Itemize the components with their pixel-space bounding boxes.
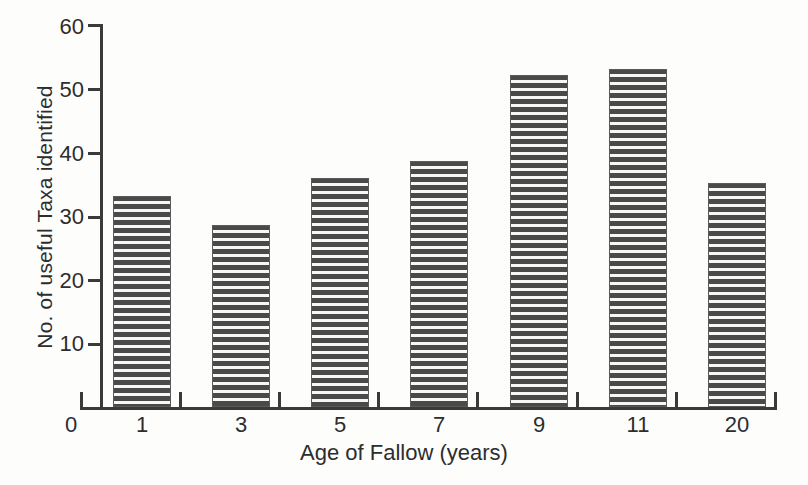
y-tick-label-0: 0 [56, 412, 86, 438]
bar-age-20 [708, 183, 766, 407]
x-tick-mark-6 [675, 392, 678, 410]
y-tick-label-30: 30 [40, 204, 84, 230]
x-tick-mark-3 [377, 392, 380, 410]
x-tick-mark-4 [476, 392, 479, 410]
bar-chart-figure: No. of useful Taxa identified 60 50 40 3… [0, 0, 808, 485]
y-tick-label-20: 20 [40, 268, 84, 294]
x-tick-label-11: 11 [608, 412, 668, 438]
y-tick-label-60: 60 [40, 14, 84, 40]
x-tick-mark-1 [179, 392, 182, 410]
bar-age-9 [510, 75, 568, 407]
x-tick-mark-5 [576, 392, 579, 410]
x-axis-end-cap [774, 392, 777, 410]
y-tick-label-50: 50 [40, 77, 84, 103]
x-tick-mark-0 [80, 392, 83, 410]
bar-age-3 [212, 225, 270, 407]
bar-age-7 [410, 161, 468, 407]
y-tick-label-40: 40 [40, 141, 84, 167]
x-axis-title: Age of Fallow (years) [0, 440, 808, 466]
x-tick-label-9: 9 [509, 412, 569, 438]
y-axis-line [100, 24, 103, 409]
x-axis-line [80, 407, 777, 410]
x-tick-label-20: 20 [707, 412, 767, 438]
x-tick-label-1: 1 [112, 412, 172, 438]
bar-age-1 [113, 196, 171, 407]
x-tick-mark-2 [278, 392, 281, 410]
x-tick-label-5: 5 [310, 412, 370, 438]
y-tick-label-10: 10 [40, 331, 84, 357]
bar-age-5 [311, 178, 369, 407]
x-tick-label-7: 7 [409, 412, 469, 438]
bar-age-11 [609, 69, 667, 407]
x-tick-label-3: 3 [211, 412, 271, 438]
